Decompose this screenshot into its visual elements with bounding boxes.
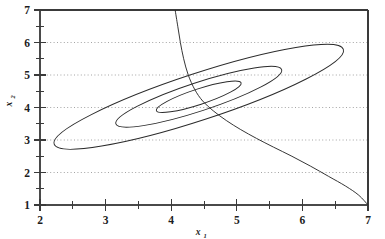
x-tick-label-7: 7: [365, 214, 371, 226]
y-tick-label-5: 5: [24, 69, 30, 81]
y-tick-labels: 1 2 3 4 5 6 7: [24, 4, 30, 211]
y-axis-title-subscript: 2: [9, 95, 16, 100]
x-tick-label-2: 2: [37, 214, 43, 226]
x-tick-label-3: 3: [103, 214, 109, 226]
y-axis-title: x 2: [4, 95, 16, 108]
x-axis-title-subscript: 1: [204, 232, 207, 239]
y-tick-label-6: 6: [24, 37, 30, 49]
y-tick-label-1: 1: [24, 199, 30, 211]
y-tick-label-7: 7: [24, 4, 30, 16]
x-tick-label-6: 6: [300, 214, 306, 226]
x-axis-title-base: x: [195, 227, 201, 237]
y-tick-label-4: 4: [24, 102, 30, 114]
y-tick-label-2: 2: [24, 167, 30, 179]
x-tick-labels: 2 3 4 5 6 7: [37, 214, 371, 226]
y-axis-title-base: x: [4, 101, 14, 107]
plot-svg: 1 2 3 4 5 6 7 2 3 4 5 6 7 x 1 x 2: [0, 0, 385, 239]
y-tick-label-3: 3: [24, 134, 30, 146]
x-axis-title: x 1: [195, 227, 207, 239]
x-tick-label-5: 5: [234, 214, 240, 226]
chart-figure: 1 2 3 4 5 6 7 2 3 4 5 6 7 x 1 x 2: [0, 0, 385, 239]
x-tick-label-4: 4: [168, 214, 174, 226]
